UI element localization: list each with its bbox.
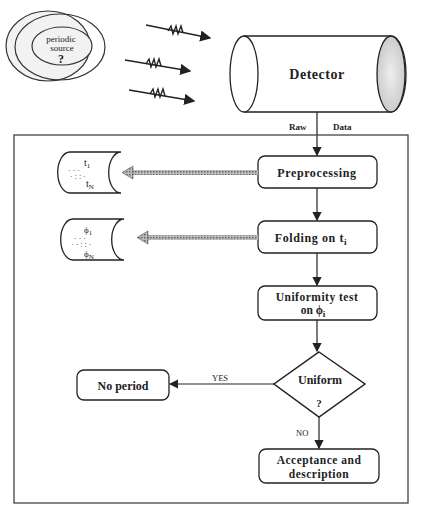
phases-last-sub: N — [89, 253, 94, 261]
uniformity-label-1: Uniformity test — [276, 291, 359, 304]
acceptance-label-1: Acceptance and — [277, 454, 362, 467]
signal-arrows — [125, 25, 210, 101]
folding-output-arrow — [137, 231, 258, 244]
detector-label: Detector — [289, 67, 344, 82]
folding-step: Folding on ti — [258, 221, 377, 253]
no-period-result: No period — [77, 370, 169, 400]
uniformity-label-2: on ϕ — [301, 304, 323, 317]
no-period-label: No period — [98, 379, 149, 393]
preprocessing-output-arrow — [122, 166, 258, 179]
detector: Detector — [230, 36, 406, 112]
folding-subscript: i — [344, 237, 347, 247]
times-first-sub: 1 — [87, 162, 91, 170]
uniformity-test-step: Uniformity test on ϕi — [258, 286, 377, 320]
preprocessing-label: Preprocessing — [277, 166, 356, 180]
svg-text:· · : : ·: · · : : · — [71, 240, 91, 249]
periodic-source: periodic source ? — [6, 11, 105, 81]
phases-storage: ϕ1 · · · · · : : · ϕN — [61, 219, 124, 261]
flowchart-canvas: periodic source ? Detector Raw Data Prep… — [0, 0, 421, 518]
phases-first-sub: 1 — [89, 229, 93, 237]
decision-question-mark: ? — [316, 397, 322, 409]
yes-label: YES — [212, 373, 228, 383]
times-last-sub: N — [89, 183, 94, 191]
raw-label: Raw — [289, 122, 307, 132]
no-label: NO — [296, 428, 308, 438]
source-question-mark: ? — [58, 52, 64, 66]
times-storage: t1 · · · · : : · tN — [58, 152, 121, 193]
folding-label: Folding on t — [275, 231, 344, 245]
svg-text:Folding on ti: Folding on ti — [275, 231, 347, 247]
decision-label: Uniform — [298, 373, 342, 387]
svg-text:· : : ·: · : : · — [70, 172, 86, 181]
acceptance-label-2: description — [289, 468, 350, 481]
preprocessing-step: Preprocessing — [258, 156, 377, 188]
data-label: Data — [333, 122, 352, 132]
acceptance-step: Acceptance and description — [259, 449, 379, 483]
uniform-decision: Uniform ? — [274, 352, 365, 417]
